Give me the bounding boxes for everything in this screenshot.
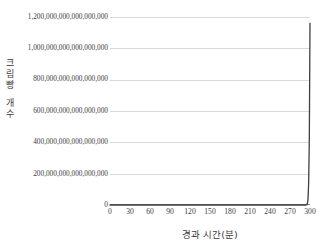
y-tick-label-5: 1,000,000,000,000,000,000 xyxy=(2,44,108,52)
y-tick-label-6: 1,200,000,000,000,000,000 xyxy=(2,13,108,21)
plot-area xyxy=(110,17,310,205)
x-axis-title: 경과 시간(분) xyxy=(110,229,310,241)
y-tick-label-4: 800,000,000,000,000,000 xyxy=(2,75,108,83)
series-path-cream-bread xyxy=(110,23,310,205)
x-tick-label-10: 300 xyxy=(296,207,323,217)
y-axis-tick-labels: 1,200,000,000,000,000,000 1,000,000,000,… xyxy=(0,0,108,249)
y-tick-label-2: 400,000,000,000,000,000 xyxy=(2,138,108,146)
data-series-curve xyxy=(110,17,310,205)
exponential-growth-chart: 크 림 빵 개 수 1,200,000,000,000,000,000 1,00… xyxy=(0,0,323,249)
y-tick-label-0: 0 xyxy=(2,201,108,209)
y-tick-label-3: 600,000,000,000,000,000 xyxy=(2,107,108,115)
y-tick-label-1: 200,000,000,000,000,000 xyxy=(2,170,108,178)
x-axis-tick-labels: 0 30 60 90 120 150 180 210 240 270 300 xyxy=(110,207,310,221)
